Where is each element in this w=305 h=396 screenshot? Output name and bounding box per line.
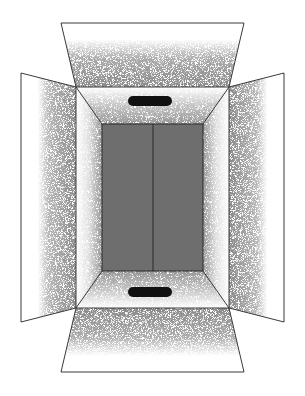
hand-hole-bottom [128,287,172,297]
hand-hole-top [128,96,172,106]
open-box-drawing [0,0,305,396]
box-illustration [0,0,305,396]
